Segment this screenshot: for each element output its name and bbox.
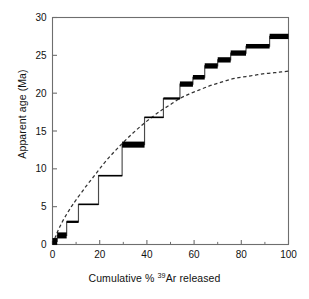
model-curve-path bbox=[53, 71, 289, 244]
plateau-error-bar bbox=[218, 57, 231, 62]
axes-frame bbox=[53, 18, 289, 245]
x-axis-label-superscript: 39 bbox=[158, 271, 166, 280]
x-axis-label-prefix: Cumulative % bbox=[89, 272, 158, 284]
y-tick-label: 0 bbox=[41, 239, 47, 250]
y-tick-label: 20 bbox=[35, 88, 47, 99]
plateau-error-bar bbox=[246, 44, 270, 49]
plateau-error-bar bbox=[270, 34, 289, 39]
x-tick-label: 40 bbox=[141, 249, 153, 260]
y-tick-label: 10 bbox=[35, 163, 47, 174]
plateau-error-bar bbox=[57, 232, 66, 238]
plateau-error-bar bbox=[122, 142, 144, 148]
x-axis-ticks bbox=[53, 240, 289, 245]
plateau-error-bar bbox=[78, 204, 98, 206]
x-tick-label: 20 bbox=[94, 249, 106, 260]
plateau-error-bar bbox=[163, 97, 180, 99]
x-axis-label: Cumulative % 39Ar released bbox=[0, 272, 309, 284]
x-axis-tick-labels: 020406080100 bbox=[50, 249, 298, 260]
y-axis-label: Apparent age (Ma) bbox=[16, 44, 28, 184]
age-uncertainty-bars bbox=[53, 34, 289, 245]
x-axis-label-suffix: Ar released bbox=[166, 272, 221, 284]
staircase-path bbox=[53, 36, 289, 244]
x-tick-label: 100 bbox=[280, 249, 297, 260]
plateau-error-bar bbox=[67, 221, 79, 223]
y-axis-tick-labels: 051015202530 bbox=[35, 12, 47, 250]
age-spectrum-figure: 020406080100 051015202530 Apparent age (… bbox=[0, 0, 309, 299]
y-tick-label: 25 bbox=[35, 50, 47, 61]
y-axis-ticks bbox=[53, 18, 58, 245]
age-spectrum-staircase bbox=[53, 36, 289, 244]
y-tick-label: 5 bbox=[41, 201, 47, 212]
model-diffusion-curve bbox=[53, 71, 289, 244]
plateau-error-bar bbox=[180, 81, 193, 86]
x-tick-label: 60 bbox=[189, 249, 201, 260]
y-tick-label: 15 bbox=[35, 126, 47, 137]
plateau-error-bar bbox=[99, 175, 123, 177]
y-tick-label: 30 bbox=[35, 12, 47, 23]
chart-canvas: 020406080100 051015202530 bbox=[0, 0, 309, 299]
x-tick-label: 0 bbox=[50, 249, 56, 260]
plateau-error-bar bbox=[193, 75, 205, 80]
plateau-error-bar bbox=[205, 63, 218, 68]
x-tick-label: 80 bbox=[236, 249, 248, 260]
plateau-error-bar bbox=[145, 117, 164, 119]
plateau-error-bar bbox=[231, 50, 246, 55]
plateau-error-bar bbox=[53, 238, 58, 245]
